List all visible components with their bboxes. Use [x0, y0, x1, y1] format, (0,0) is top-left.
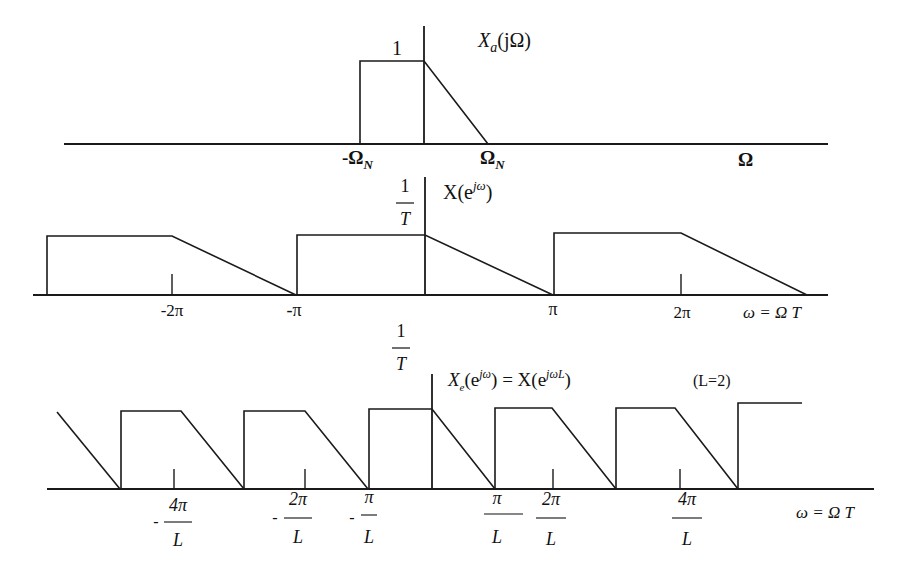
replica-2 [244, 411, 368, 489]
svg-text:L: L [681, 529, 692, 549]
replica-4 [495, 408, 616, 489]
peak-label: 1 [392, 37, 402, 59]
tick-label-neg-4pi-over-l: - 4π L [153, 495, 192, 550]
svg-text:-: - [349, 509, 354, 526]
tick-label-4pi-over-l: 4π L [672, 489, 702, 549]
tick-label-neg-omega-n: -ΩN [342, 147, 374, 172]
tick-label-neg-2pi: -2π [161, 301, 184, 320]
svg-text:π: π [492, 488, 502, 508]
l-equals-2-note: (L=2) [693, 372, 730, 390]
svg-text:π: π [364, 487, 374, 507]
tick-label-2pi-over-l: 2π L [536, 489, 566, 549]
svg-text:L: L [292, 527, 303, 547]
svg-text:1: 1 [401, 176, 410, 196]
panel-sampled-spectrum: 1 T X(ejω) -2π -π π 2π ω = Ω T [33, 176, 828, 322]
peak-label-1-over-t: 1 T [392, 321, 410, 374]
axis-label-omega-omega-t: ω = Ω T [796, 503, 856, 522]
peak-label-1-over-t: 1 T [396, 176, 414, 229]
replica-edge-left [57, 412, 120, 489]
svg-text:T: T [400, 209, 412, 229]
panel-analog-spectrum: 1 Xa(jΩ) -ΩN ΩN Ω [64, 26, 828, 172]
panel-expanded-spectrum: 1 T Xe(ejω) = X(ejωL) (L=2) - 4π L - 2π … [47, 321, 874, 550]
tick-label-omega-n: ΩN [480, 147, 505, 172]
svg-text:4π: 4π [169, 495, 188, 515]
axis-label-omega-omega-t: ω = Ω T [743, 303, 803, 322]
spectrum-diagram: 1 Xa(jΩ) -ΩN ΩN Ω 1 T X(ejω) -2π -π [0, 0, 905, 575]
svg-text:T: T [396, 354, 408, 374]
tick-label-2pi: 2π [673, 303, 691, 322]
tick-label-neg-2pi-over-l: - 2π L [272, 489, 312, 547]
svg-text:L: L [545, 529, 556, 549]
svg-text:L: L [172, 530, 183, 550]
tick-label-neg-pi-over-l: - π L [349, 487, 377, 547]
replica-1 [121, 411, 244, 489]
panel-title: Xe(ejω) = X(ejωL) [447, 367, 571, 393]
svg-text:-: - [153, 513, 158, 530]
svg-text:L: L [363, 527, 374, 547]
svg-text:2π: 2π [542, 489, 561, 509]
svg-text:2π: 2π [289, 489, 308, 509]
axis-label-omega: Ω [738, 149, 753, 170]
svg-text:1: 1 [397, 321, 406, 341]
svg-text:4π: 4π [678, 489, 697, 509]
replica-6 [738, 403, 802, 489]
panel-title: Xa(jΩ) [477, 29, 531, 55]
panel-title: X(ejω) [443, 178, 492, 204]
svg-text:-: - [272, 509, 277, 526]
tick-label-pi: π [548, 299, 557, 319]
tick-label-pi-over-l: π L [484, 488, 523, 547]
tick-label-neg-pi: -π [286, 300, 301, 320]
replica-5 [616, 408, 738, 489]
svg-text:L: L [491, 527, 502, 547]
